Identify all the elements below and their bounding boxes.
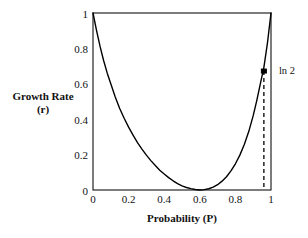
x-tick-label-1: 1 [268,193,274,205]
growth-rate-vs-probability-chart: 1 0.8 0.6 0.4 0.2 0 0 0.2 0.4 0.6 0.8 1 … [0,0,308,238]
ln2-annotation-label: ln 2 [279,65,295,76]
y-axis-title-line1: Growth Rate [12,90,73,102]
y-tick-label-0: 0 [83,185,89,197]
x-tick-label-0-6: 0.6 [193,193,207,205]
ln2-marker-point [261,69,266,73]
x-tick-label-0: 0 [90,193,96,205]
growth-rate-curve [93,13,271,190]
chart-figure: 1 0.8 0.6 0.4 0.2 0 0 0.2 0.4 0.6 0.8 1 … [0,0,308,238]
y-tick-label-0-2: 0.2 [74,149,88,161]
x-axis-tick-labels: 0 0.2 0.4 0.6 0.8 1 [90,193,274,205]
y-axis-tick-labels: 1 0.8 0.6 0.4 0.2 0 [74,8,88,197]
x-tick-label-0-2: 0.2 [122,193,136,205]
y-tick-label-0-6: 0.6 [74,78,88,90]
y-tick-label-0-4: 0.4 [74,114,88,126]
y-axis-title: Growth Rate (r) [12,90,73,116]
x-axis-title: Probability (P) [147,212,217,225]
x-tick-label-0-8: 0.8 [229,193,243,205]
y-tick-label-1: 1 [83,8,89,20]
plot-frame [93,13,271,190]
y-tick-label-0-8: 0.8 [74,43,88,55]
x-tick-label-0-4: 0.4 [157,193,171,205]
y-axis-title-line2: (r) [37,103,50,116]
